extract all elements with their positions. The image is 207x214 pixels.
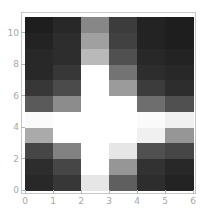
heatmap-cell [165,80,194,96]
x-tick-label: 2 [78,197,84,206]
heatmap-cell [109,48,138,64]
heatmap-cell [137,143,166,159]
heatmap-cell [25,17,54,33]
heatmap-cell [53,96,82,112]
heatmap-cell [137,33,166,49]
heatmap-cell [137,96,166,112]
y-tick-mark [21,64,25,65]
heatmap-cell [81,17,110,33]
heatmap-cell [109,143,138,159]
heatmap-cell [53,174,82,190]
x-tick-label: 0 [22,197,28,206]
heatmap-plot-area [25,17,193,190]
heatmap-cell [109,159,138,175]
heatmap-cell [53,159,82,175]
heatmap-cell [25,80,54,96]
x-tick-mark [81,190,82,194]
heatmap-cell [165,17,194,33]
y-tick-label: 6 [13,91,19,100]
heatmap-cell [25,159,54,175]
heatmap-cell [137,80,166,96]
heatmap-cell [53,127,82,143]
heatmap-cell [109,33,138,49]
heatmap-cell [81,33,110,49]
x-tick-mark [109,190,110,194]
heatmap-cell [81,127,110,143]
heatmap-cell [109,127,138,143]
heatmap-cell [53,33,82,49]
y-tick-label: 8 [13,60,19,69]
heatmap-cell [109,64,138,80]
y-tick-mark [21,32,25,33]
x-tick-mark [193,190,194,194]
heatmap-cell [81,143,110,159]
heatmap-cell [53,143,82,159]
heatmap-cell [81,64,110,80]
heatmap-cell [165,174,194,190]
heatmap-cell [109,17,138,33]
y-tick-mark [21,127,25,128]
x-tick-mark [25,190,26,194]
heatmap-cell [137,64,166,80]
y-tick-label: 10 [8,28,19,37]
heatmap-cell [137,127,166,143]
heatmap-cell [137,111,166,127]
heatmap-cell [25,143,54,159]
heatmap-cell [53,17,82,33]
x-tick-label: 1 [50,197,56,206]
heatmap-cell [53,80,82,96]
heatmap-cell [81,48,110,64]
heatmap-cell [81,96,110,112]
x-tick-label: 3 [106,197,112,206]
heatmap-cell [137,159,166,175]
y-tick-label: 2 [13,154,19,163]
heatmap-cell [53,48,82,64]
y-tick-mark [21,95,25,96]
heatmap-cell [137,174,166,190]
x-tick-label: 6 [190,197,196,206]
heatmap-cell [81,174,110,190]
x-tick-mark [137,190,138,194]
heatmap-cell [25,64,54,80]
heatmap-cell [81,111,110,127]
heatmap-cell [165,127,194,143]
y-tick-label: 4 [13,123,19,132]
heatmap-cell [165,143,194,159]
heatmap-cell [25,127,54,143]
x-tick-label: 4 [134,197,140,206]
heatmap-cell [109,111,138,127]
x-tick-label: 5 [162,197,168,206]
heatmap-cell [25,96,54,112]
heatmap-cell [81,159,110,175]
heatmap-cell [109,174,138,190]
y-tick-mark [21,158,25,159]
heatmap-cell [109,96,138,112]
heatmap-cell [53,111,82,127]
heatmap-cell [53,64,82,80]
heatmap-cell [25,33,54,49]
heatmap-cell [165,111,194,127]
y-tick-mark [21,190,25,191]
heatmap-cell [81,80,110,96]
heatmap-cell [165,33,194,49]
heatmap-cell [165,48,194,64]
heatmap-cell [25,48,54,64]
x-tick-mark [165,190,166,194]
heatmap-cell [165,96,194,112]
heatmap-cell [137,48,166,64]
heatmap-cell [165,159,194,175]
heatmap-cell [25,111,54,127]
heatmap-cell [137,17,166,33]
heatmap-cell [165,64,194,80]
heatmap-cell [109,80,138,96]
heatmap-cell [25,174,54,190]
x-tick-mark [53,190,54,194]
y-tick-label: 0 [13,186,19,195]
